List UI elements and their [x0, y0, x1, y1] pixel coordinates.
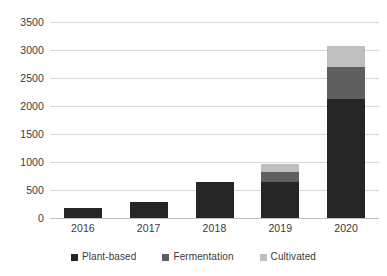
bar-group[interactable] [261, 22, 299, 218]
legend-swatch-icon [71, 254, 78, 261]
bar-segment[interactable] [261, 172, 299, 182]
bar-group[interactable] [130, 22, 168, 218]
legend-item[interactable]: Plant-based [71, 252, 136, 262]
y-axis-tick-label: 0 [0, 213, 44, 224]
x-axis-tick-label: 2019 [250, 222, 310, 235]
bar-segment[interactable] [327, 67, 365, 99]
bar-segment[interactable] [64, 208, 102, 218]
bar-group[interactable] [196, 22, 234, 218]
legend-label: Fermentation [173, 252, 233, 262]
bar-group[interactable] [327, 22, 365, 218]
legend-item[interactable]: Fermentation [162, 252, 233, 262]
bar-group[interactable] [64, 22, 102, 218]
y-axis-tick-label: 2500 [0, 73, 44, 84]
bar-segment[interactable] [261, 164, 299, 172]
chart-legend: Plant-basedFermentationCultivated [0, 252, 387, 262]
legend-swatch-icon [260, 254, 267, 261]
x-axis: 20162017201820192020 [50, 222, 379, 240]
y-axis: 3500300025002000150010005000 [0, 22, 44, 218]
y-axis-tick-label: 3000 [0, 45, 44, 56]
plot-area [50, 22, 379, 218]
y-axis-tick-label: 3500 [0, 17, 44, 28]
legend-swatch-icon [162, 254, 169, 261]
bar-segment[interactable] [327, 99, 365, 218]
legend-item[interactable]: Cultivated [260, 252, 316, 262]
bar-segment[interactable] [261, 182, 299, 218]
bar-segment[interactable] [196, 182, 234, 218]
legend-label: Plant-based [82, 252, 136, 262]
x-axis-tick-label: 2016 [53, 222, 113, 235]
legend-label: Cultivated [271, 252, 316, 262]
x-axis-tick-label: 2018 [185, 222, 245, 235]
y-axis-tick-label: 2000 [0, 101, 44, 112]
y-axis-tick-label: 1000 [0, 157, 44, 168]
y-axis-tick-label: 1500 [0, 129, 44, 140]
bar-segment[interactable] [327, 46, 365, 67]
x-axis-tick-label: 2017 [119, 222, 179, 235]
axis-line-zero [50, 218, 379, 219]
bar-chart: 3500300025002000150010005000 20162017201… [0, 0, 387, 276]
bar-segment[interactable] [130, 202, 168, 218]
x-axis-tick-label: 2020 [316, 222, 376, 235]
y-axis-tick-label: 500 [0, 185, 44, 196]
